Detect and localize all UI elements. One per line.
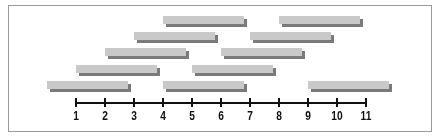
- bar-face: [76, 65, 157, 73]
- tick-label: 10: [327, 109, 347, 123]
- tick-label: 11: [356, 109, 376, 123]
- bar-face: [279, 16, 360, 24]
- axis-tick: [75, 98, 77, 107]
- axis-tick: [365, 98, 367, 107]
- interval-bar: [47, 81, 128, 89]
- interval-bar: [105, 48, 186, 56]
- bar-face: [250, 32, 331, 40]
- bar-face: [221, 48, 302, 56]
- tick-label: 9: [298, 109, 318, 123]
- bar-face: [308, 81, 389, 89]
- interval-bar: [308, 81, 389, 89]
- axis-tick: [191, 98, 193, 107]
- axis-tick: [133, 98, 135, 107]
- tick-label: 3: [124, 109, 144, 123]
- axis-tick: [336, 98, 338, 107]
- tick-label: 7: [240, 109, 260, 123]
- interval-bar: [279, 16, 360, 24]
- interval-bar: [163, 16, 244, 24]
- interval-bar: [76, 65, 157, 73]
- tick-label: 5: [182, 109, 202, 123]
- bar-face: [105, 48, 186, 56]
- interval-bar: [250, 32, 331, 40]
- bar-face: [163, 81, 244, 89]
- axis-tick: [104, 98, 106, 107]
- bar-face: [134, 32, 215, 40]
- axis-tick: [278, 98, 280, 107]
- bar-face: [192, 65, 273, 73]
- tick-label: 8: [269, 109, 289, 123]
- interval-bar: [221, 48, 302, 56]
- interval-bar: [134, 32, 215, 40]
- axis-tick: [307, 98, 309, 107]
- axis-tick: [162, 98, 164, 107]
- tick-label: 1: [66, 109, 86, 123]
- interval-bar: [163, 81, 244, 89]
- tick-label: 4: [153, 109, 173, 123]
- bar-face: [47, 81, 128, 89]
- tick-label: 2: [95, 109, 115, 123]
- bar-face: [163, 16, 244, 24]
- axis-tick: [249, 98, 251, 107]
- tick-label: 6: [211, 109, 231, 123]
- interval-bar: [192, 65, 273, 73]
- axis-tick: [220, 98, 222, 107]
